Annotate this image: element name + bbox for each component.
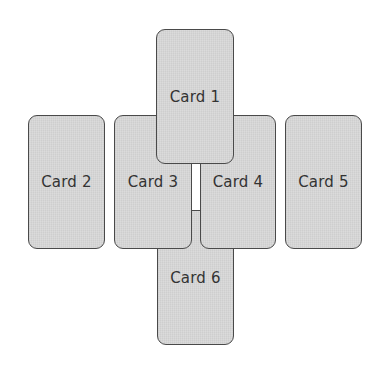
card-3-label: Card 3 (128, 173, 179, 191)
card-spread-diagram: Card 2 Card 6 Card 3 Card 4 Card 5 Card … (0, 0, 385, 377)
card-5: Card 5 (285, 115, 362, 249)
card-1-label: Card 1 (170, 88, 221, 106)
card-2: Card 2 (28, 115, 105, 249)
card-5-label: Card 5 (298, 173, 349, 191)
card-6-label: Card 6 (170, 269, 221, 287)
card-2-label: Card 2 (41, 173, 92, 191)
card-1: Card 1 (156, 29, 234, 164)
card-4-label: Card 4 (213, 173, 264, 191)
